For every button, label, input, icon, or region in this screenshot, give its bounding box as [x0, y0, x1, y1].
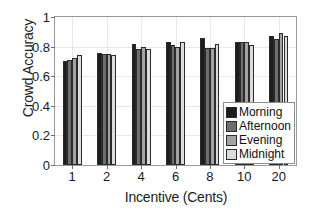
legend-item: Evening [226, 133, 291, 147]
y-tick-label: 0 [43, 159, 50, 172]
legend-swatch [226, 107, 237, 118]
bar [146, 49, 151, 165]
y-tick-label: 0.8 [32, 40, 50, 53]
y-tick-label: 0.6 [32, 70, 50, 83]
bar [77, 55, 82, 165]
chart-legend: MorningAfternoonEveningMidnight [223, 102, 295, 164]
y-tick-mark [51, 47, 55, 48]
y-tick-mark [51, 135, 55, 136]
x-tick-label: 1 [69, 170, 76, 183]
x-tick-label: 20 [272, 170, 286, 183]
y-tick-mark [51, 106, 55, 107]
x-axis-label: Incentive (Cents) [54, 189, 298, 205]
legend-label: Morning [239, 106, 282, 118]
legend-label: Evening [239, 134, 282, 146]
bar-group [166, 17, 185, 165]
bar-group [97, 17, 116, 165]
x-tick-label: 2 [103, 170, 110, 183]
x-tick-label: 10 [237, 170, 251, 183]
plot-area: 00.20.40.60.81 124681020 MorningAfternoo… [54, 16, 297, 166]
y-tick-label: 0.4 [32, 99, 50, 112]
y-tick-label: 0.2 [32, 129, 50, 142]
y-tick-label: 1 [43, 11, 50, 24]
legend-label: Afternoon [239, 120, 291, 132]
y-tick-mark [51, 17, 55, 18]
x-tick-label: 8 [206, 170, 213, 183]
x-tick-label: 4 [137, 170, 144, 183]
bar-group [63, 17, 82, 165]
legend-swatch [226, 121, 237, 132]
legend-item: Afternoon [226, 119, 291, 133]
legend-swatch [226, 149, 237, 160]
x-tick-label: 6 [172, 170, 179, 183]
chart-figure: Crowd Accuracy 00.20.40.60.81 124681020 … [0, 0, 309, 212]
legend-label: Midnight [239, 148, 284, 160]
bar-group [200, 17, 219, 165]
legend-swatch [226, 135, 237, 146]
y-tick-mark [51, 76, 55, 77]
bar [215, 44, 220, 165]
legend-item: Midnight [226, 147, 291, 161]
legend-item: Morning [226, 105, 291, 119]
bar [180, 42, 185, 165]
bar-group [132, 17, 151, 165]
y-tick-mark [51, 165, 55, 166]
bar [111, 55, 116, 165]
